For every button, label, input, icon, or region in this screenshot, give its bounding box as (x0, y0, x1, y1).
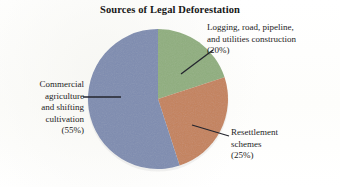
slice-label-commercial-line1: Commercial (6, 79, 84, 91)
slice-label-commercial-line3: and shifting (6, 102, 84, 114)
pie-chart-figure: Sources of Legal Deforestation (0, 0, 340, 187)
slice-label-resettlement: Resettlement schemes (25%) (231, 127, 335, 162)
slice-label-logging-percent: (20%) (207, 45, 339, 57)
slice-label-resettlement-line2: schemes (231, 139, 335, 151)
slice-label-commercial-percent: (55%) (6, 125, 84, 137)
slice-label-logging-line2: and utilities construction (207, 34, 339, 46)
slice-label-commercial-line4: cultivation (6, 114, 84, 126)
slice-label-commercial: Commercial agriculture and shifting cult… (6, 79, 84, 137)
slice-label-logging-line1: Logging, road, pipeline, (207, 22, 339, 34)
slice-label-resettlement-percent: (25%) (231, 150, 335, 162)
slice-label-logging: Logging, road, pipeline, and utilities c… (207, 22, 339, 57)
slice-label-commercial-line2: agriculture (6, 91, 84, 103)
slice-label-resettlement-line1: Resettlement (231, 127, 335, 139)
